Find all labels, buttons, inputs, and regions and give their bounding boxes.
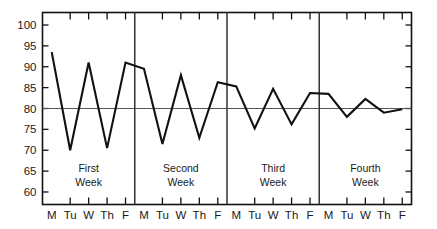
x-tick-label-16: Tu xyxy=(340,209,353,221)
y-tick-label-90: 90 xyxy=(24,61,37,73)
x-tick-label-7: W xyxy=(175,209,186,221)
x-tick-label-9: F xyxy=(214,209,221,221)
week-label-2-line2: Week xyxy=(168,176,195,188)
y-tick-label-80: 80 xyxy=(24,103,37,115)
y-tick-label-95: 95 xyxy=(24,40,37,52)
week-label-3-line2: Week xyxy=(260,176,287,188)
x-tick-label-11: Tu xyxy=(248,209,261,221)
x-tick-label-19: F xyxy=(399,209,406,221)
x-tick-label-15: M xyxy=(324,209,334,221)
x-tick-label-0: M xyxy=(47,209,57,221)
x-tick-label-14: F xyxy=(307,209,314,221)
week-label-1-line2: Week xyxy=(75,176,102,188)
y-tick-label-70: 70 xyxy=(24,144,37,156)
x-tick-label-2: W xyxy=(83,209,94,221)
y-tick-label-100: 100 xyxy=(17,19,36,31)
x-tick-label-6: Tu xyxy=(156,209,169,221)
x-tick-label-10: M xyxy=(231,209,241,221)
y-tick-label-75: 75 xyxy=(24,123,37,135)
line-chart: 6065707580859095100 MTuWThFMTuWThFMTuWTh… xyxy=(0,0,437,229)
y-tick-label-85: 85 xyxy=(24,82,37,94)
x-tick-label-3: Th xyxy=(100,209,113,221)
week-label-2-line1: Second xyxy=(163,162,199,174)
chart-container: 6065707580859095100 MTuWThFMTuWThFMTuWTh… xyxy=(0,0,437,229)
x-tick-label-4: F xyxy=(122,209,129,221)
x-tick-label-12: W xyxy=(268,209,279,221)
x-tick-label-18: Th xyxy=(377,209,390,221)
chart-background xyxy=(0,0,437,229)
x-tick-label-1: Tu xyxy=(64,209,77,221)
week-label-3-line1: Third xyxy=(261,162,285,174)
week-label-1-line1: First xyxy=(78,162,98,174)
week-label-4-line2: Week xyxy=(352,176,379,188)
y-tick-label-65: 65 xyxy=(24,165,37,177)
x-tick-label-13: Th xyxy=(285,209,298,221)
y-tick-label-60: 60 xyxy=(24,186,37,198)
x-tick-label-8: Th xyxy=(193,209,206,221)
week-label-4-line1: Fourth xyxy=(350,162,381,174)
x-tick-label-17: W xyxy=(360,209,371,221)
x-tick-label-5: M xyxy=(139,209,149,221)
